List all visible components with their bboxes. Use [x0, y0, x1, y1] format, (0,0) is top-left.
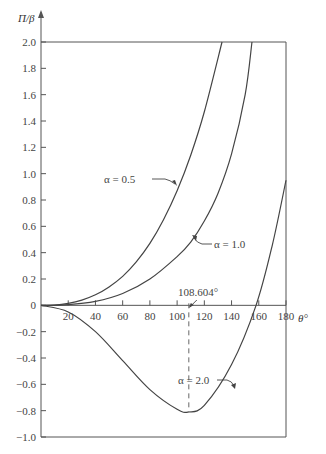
y-tick-label: −0.8: [16, 405, 36, 417]
x-tick-label: 40: [90, 310, 102, 322]
label-min-angle: 108.604°: [178, 286, 218, 298]
x-axis-title: θ°: [298, 312, 308, 324]
x-tick-label: 100: [169, 310, 186, 322]
annotations: Π/β θ° α = 0.5 α = 1.0 α = 2.0 108.604°: [17, 12, 308, 389]
y-tick-label: −0.4: [16, 352, 36, 364]
y-tick-label: 2.0: [22, 36, 36, 48]
curve-alpha-1-0: [41, 42, 252, 305]
x-tick-label: 60: [117, 310, 129, 322]
x-tick-label: 80: [144, 310, 156, 322]
y-axis-arrow-icon: [38, 10, 44, 18]
leader-alpha-0-5: [152, 179, 175, 184]
y-axis-ticks: 2.01.81.61.41.21.00.80.60.40.20−0.2−0.4−…: [16, 36, 46, 443]
y-tick-label: 1.8: [22, 62, 36, 74]
x-tick-label: 140: [223, 310, 240, 322]
leader-alpha-1-0: [194, 238, 212, 244]
y-tick-label: 0.2: [22, 273, 36, 285]
y-tick-label: 0.6: [22, 220, 36, 232]
y-axis-title: Π/β: [17, 12, 35, 24]
y-tick-label: −0.6: [16, 378, 36, 390]
chart: 2.01.81.61.41.21.00.80.60.40.20−0.2−0.4−…: [0, 0, 326, 454]
y-tick-label: 1.0: [22, 168, 36, 180]
y-tick-label: 1.6: [22, 89, 36, 101]
y-tick-label: −0.2: [16, 326, 36, 338]
y-tick-label: 1.4: [22, 115, 36, 127]
x-tick-label: 120: [196, 310, 213, 322]
x-axis-ticks: 20406080100120140160180: [63, 300, 295, 322]
label-alpha-0-5: α = 0.5: [104, 173, 136, 185]
y-tick-label: −1.0: [16, 431, 36, 443]
y-tick-label: 0.8: [22, 194, 36, 206]
label-alpha-1-0: α = 1.0: [214, 238, 246, 250]
x-tick-label: 180: [278, 310, 295, 322]
y-tick-label: 0.4: [22, 247, 36, 259]
y-tick-label: 1.2: [22, 141, 36, 153]
y-tick-label: 0: [31, 299, 37, 311]
curves: [41, 42, 286, 412]
label-alpha-2-0: α = 2.0: [178, 374, 210, 386]
curve-alpha-2-0: [41, 180, 286, 412]
